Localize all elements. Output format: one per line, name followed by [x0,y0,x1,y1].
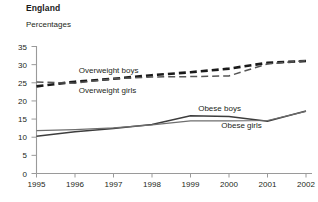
y-axis-ticks: 05101520253035 [18,43,36,179]
y-tick-label: 5 [23,151,28,160]
y-tick-label: 35 [18,43,27,52]
chart-figure: England Percentages 05101520253035 19951… [0,0,318,202]
x-axis: 19951996199719981999200020012002 [28,174,316,189]
y-tick-label: 0 [23,170,28,179]
x-tick-label: 2001 [259,180,277,189]
y-axis: 05101520253035 [18,43,36,179]
y-tick-label: 25 [18,79,27,88]
series-label-obese-boys: Obese boys [198,104,241,113]
series-line-obese-boys [37,111,307,136]
y-tick-label: 15 [18,115,27,124]
series-line-obese-girls [37,111,307,130]
y-tick-label: 20 [18,97,27,106]
y-tick-label: 10 [18,133,27,142]
data-series-group [37,61,307,136]
x-tick-label: 2000 [220,180,238,189]
x-tick-label: 2002 [297,180,315,189]
x-tick-label: 1999 [182,180,200,189]
x-tick-label: 1995 [28,180,46,189]
series-label-overweight-girls: Overweight girls [79,86,136,95]
y-tick-label: 30 [18,61,27,70]
x-tick-label: 1997 [105,180,123,189]
line-chart-plot: 05101520253035 1995199619971998199920002… [0,0,318,202]
x-tick-label: 1996 [66,180,84,189]
series-line-overweight-girls [37,61,307,84]
series-label-obese-girls: Obese girls [221,121,261,130]
x-axis-ticks: 19951996199719981999200020012002 [28,174,316,189]
x-tick-label: 1998 [143,180,161,189]
series-label-overweight-boys: Overweight boys [79,66,139,75]
